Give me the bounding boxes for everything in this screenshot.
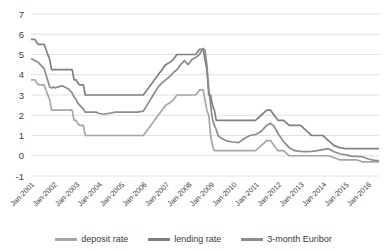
y-axis-tick-labels: 76543210-1: [16, 9, 24, 182]
line-chart: 76543210-1 Jan-2001Jan-2002Jan-2003Jan-2…: [0, 0, 387, 251]
y-tick-label: 0: [19, 150, 24, 161]
legend-swatch-3-month-euribor: [241, 238, 263, 241]
chart-legend: deposit ratelending rate3-month Euribor: [0, 227, 387, 251]
legend-item-deposit-rate[interactable]: deposit rate: [55, 234, 128, 244]
legend-swatch-lending-rate: [148, 238, 170, 241]
gridlines: [31, 14, 379, 176]
chart-svg: 76543210-1 Jan-2001Jan-2002Jan-2003Jan-2…: [0, 0, 387, 225]
legend-item-3-month-euribor[interactable]: 3-month Euribor: [241, 234, 332, 244]
y-tick-label: 1: [19, 130, 24, 141]
y-tick-label: 7: [19, 9, 24, 20]
plot-area: 76543210-1 Jan-2001Jan-2002Jan-2003Jan-2…: [0, 0, 387, 225]
legend-swatch-deposit-rate: [55, 238, 77, 241]
y-tick-label: 4: [19, 69, 24, 80]
x-tick-label: Jan-2010: [210, 180, 238, 208]
x-tick-label: Jan-2016: [345, 180, 373, 208]
legend-label-deposit-rate: deposit rate: [81, 234, 128, 244]
y-tick-label: -1: [16, 171, 24, 182]
x-axis-tick-labels: Jan-2001Jan-2002Jan-2003Jan-2004Jan-2005…: [8, 180, 373, 208]
legend-label-3-month-euribor: 3-month Euribor: [267, 234, 332, 244]
series-lines: [31, 39, 379, 162]
legend-item-lending-rate[interactable]: lending rate: [148, 234, 221, 244]
y-tick-label: 3: [19, 90, 24, 101]
y-tick-label: 5: [19, 49, 24, 60]
y-tick-label: 6: [19, 29, 24, 40]
legend-label-lending-rate: lending rate: [174, 234, 221, 244]
y-tick-label: 2: [19, 110, 24, 121]
